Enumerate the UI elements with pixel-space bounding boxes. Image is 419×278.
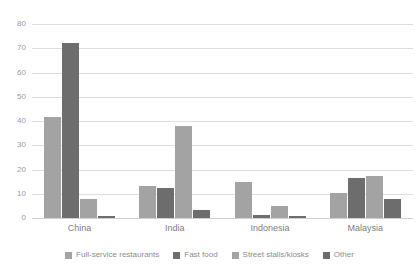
legend-item[interactable]: Full-service restaurants	[65, 251, 159, 259]
chart-legend: Full-service restaurantsFast foodStreet …	[0, 251, 419, 259]
y-tick-label: 20	[17, 166, 26, 174]
bar	[235, 182, 252, 218]
y-tick-label: 80	[17, 20, 26, 28]
legend-label: Other	[334, 251, 354, 259]
y-axis: 01020304050607080	[0, 24, 26, 218]
bar	[44, 117, 61, 218]
bar	[175, 126, 192, 218]
bar	[80, 199, 97, 218]
y-tick-label: 40	[17, 117, 26, 125]
bar-chart-figure: 01020304050607080 ChinaIndiaIndonesiaMal…	[0, 0, 419, 278]
x-tick-label: Malaysia	[318, 224, 413, 233]
legend-item[interactable]: Street stalls/kiosks	[232, 251, 309, 259]
legend-swatch-icon	[232, 252, 239, 259]
legend-swatch-icon	[173, 252, 180, 259]
bar	[62, 43, 79, 218]
bar	[330, 193, 347, 218]
legend-label: Street stalls/kiosks	[243, 251, 309, 259]
legend-label: Fast food	[184, 251, 217, 259]
bar	[253, 215, 270, 218]
x-tick-label: India	[127, 224, 222, 233]
bar-group	[318, 24, 413, 218]
gridline-0	[32, 218, 413, 219]
bar	[271, 206, 288, 218]
bar-group	[127, 24, 222, 218]
y-tick-label: 70	[17, 44, 26, 52]
legend-item[interactable]: Fast food	[173, 251, 217, 259]
bar	[366, 176, 383, 218]
legend-item[interactable]: Other	[323, 251, 354, 259]
bar	[384, 199, 401, 218]
x-tick-label: Indonesia	[223, 224, 318, 233]
bar-groups	[32, 24, 413, 218]
y-tick-label: 60	[17, 69, 26, 77]
legend-swatch-icon	[323, 252, 330, 259]
x-axis: ChinaIndiaIndonesiaMalaysia	[32, 224, 413, 233]
legend-label: Full-service restaurants	[76, 251, 159, 259]
bar	[98, 216, 115, 218]
y-tick-label: 50	[17, 93, 26, 101]
bar-group	[32, 24, 127, 218]
bar	[139, 186, 156, 218]
x-tick-label: China	[32, 224, 127, 233]
legend-swatch-icon	[65, 252, 72, 259]
y-tick-label: 0	[22, 214, 26, 222]
bar	[348, 178, 365, 218]
bar	[289, 216, 306, 218]
y-tick-label: 30	[17, 141, 26, 149]
y-tick-label: 10	[17, 190, 26, 198]
plot-area	[32, 24, 413, 218]
bar	[193, 210, 210, 218]
bar-group	[223, 24, 318, 218]
bar	[157, 188, 174, 218]
